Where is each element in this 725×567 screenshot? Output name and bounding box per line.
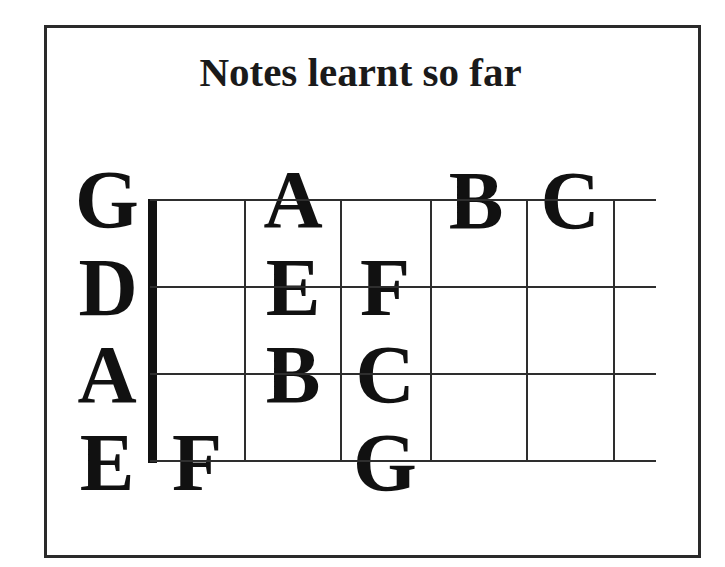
fret-line-5 <box>613 199 615 462</box>
fret-line-3 <box>430 199 432 462</box>
string-line-a <box>150 373 656 375</box>
fret-line-4 <box>526 199 528 462</box>
string-line-d <box>150 286 656 288</box>
fret-line-1 <box>244 199 246 462</box>
fretboard-nut <box>148 199 157 463</box>
fret-line-2 <box>340 199 342 462</box>
fretboard <box>0 0 725 567</box>
string-line-e <box>150 460 656 462</box>
string-line-g <box>150 199 656 201</box>
